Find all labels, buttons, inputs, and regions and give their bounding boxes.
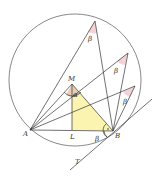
right-angle-dot <box>107 128 109 130</box>
label-beta2: β <box>113 67 118 75</box>
label-beta4: β <box>94 135 99 143</box>
label-m: M <box>67 75 76 83</box>
label-l: L <box>69 133 75 141</box>
label-beta1: β <box>87 35 92 43</box>
label-alpha: α <box>73 91 78 99</box>
label-beta3: β <box>122 98 127 106</box>
label-a: A <box>22 130 28 138</box>
label-t: T <box>75 158 81 166</box>
label-b: B <box>114 132 120 140</box>
geometry-diagram: A B L M T α β β β β <box>0 0 158 181</box>
line-a-m <box>30 84 72 130</box>
diagram-canvas: A B L M T α β β β β <box>0 0 158 181</box>
angle-beta3-fill <box>123 86 135 97</box>
